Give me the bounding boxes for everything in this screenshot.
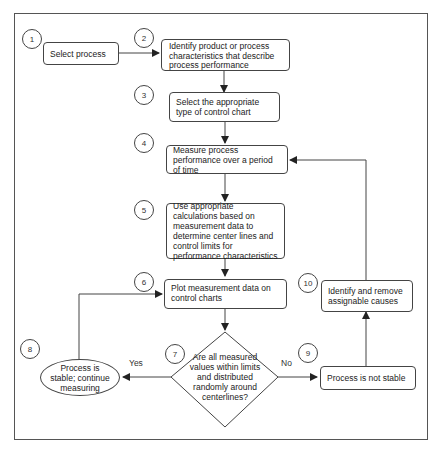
- step-number-text: 6: [142, 278, 146, 287]
- step-number-text: 2: [142, 34, 146, 43]
- step-number-text: 4: [142, 139, 146, 148]
- step-number-text: 10: [304, 279, 313, 288]
- step-number-text: 8: [28, 345, 32, 354]
- step-label: Select process: [50, 49, 106, 59]
- step-3-select-chart-type: Select the appropriate type of control c…: [169, 92, 280, 122]
- step-5-calculate-limits: Use appropriate calculations based on me…: [166, 203, 285, 259]
- step-number-3: 3: [134, 85, 154, 105]
- step-10-remove-causes: Identify and remove assignable causes: [321, 280, 413, 312]
- step-number-text: 5: [142, 206, 146, 215]
- step-2-identify-characteristics: Identify product or process characterist…: [161, 39, 290, 71]
- step-label: Process is not stable: [327, 373, 405, 383]
- step-number-6: 6: [134, 272, 154, 292]
- step-number-7: 7: [165, 344, 185, 364]
- step-number-text: 3: [142, 91, 146, 100]
- step-number-5: 5: [134, 200, 154, 220]
- step-number-text: 7: [173, 350, 177, 359]
- arrow-8-to-6: [79, 294, 162, 359]
- step-number-4: 4: [134, 133, 154, 153]
- step-label: Process is stable; continue measuring: [47, 363, 113, 393]
- step-9-not-stable: Process is not stable: [320, 366, 416, 390]
- step-8-stable-ellipse: Process is stable; continue measuring: [40, 359, 120, 396]
- step-label: Identify and remove assignable causes: [328, 286, 406, 306]
- step-number-2: 2: [134, 28, 154, 48]
- edge-label-yes: Yes: [129, 358, 143, 368]
- step-7-decision-text: Are all measured values within limits an…: [184, 352, 266, 402]
- edge-label-no: No: [281, 358, 292, 368]
- step-number-9: 9: [298, 343, 318, 363]
- step-6-plot-data: Plot measurement data on control charts: [164, 279, 287, 309]
- flowchart-canvas: 1 2 3 4 5 6 7 8 9 10 Select process Iden…: [0, 0, 439, 451]
- step-number-text: 9: [306, 349, 310, 358]
- arrow-10-to-4: [290, 160, 366, 280]
- step-number-10: 10: [298, 273, 318, 293]
- step-label: Are all measured values within limits an…: [190, 352, 260, 402]
- step-label: Measure process performance over a perio…: [173, 145, 281, 175]
- step-label: Plot measurement data on control charts: [171, 283, 271, 303]
- step-label: Identify product or process characterist…: [169, 41, 274, 70]
- step-label: Select the appropriate type of control c…: [176, 97, 273, 117]
- step-label: Use appropriate calculations based on me…: [173, 201, 278, 261]
- step-1-select-process: Select process: [43, 42, 119, 65]
- step-number-1: 1: [22, 29, 42, 49]
- step-number-text: 1: [30, 35, 34, 44]
- step-number-8: 8: [20, 339, 40, 359]
- step-4-measure-performance: Measure process performance over a perio…: [166, 145, 288, 174]
